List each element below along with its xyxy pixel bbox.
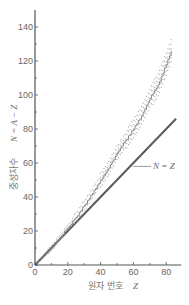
y-tick-label: 100 xyxy=(18,90,33,100)
isotope-dot xyxy=(56,238,57,239)
isotope-dot xyxy=(125,134,126,135)
isotope-dot xyxy=(69,223,70,224)
isotope-dot xyxy=(118,153,119,154)
isotope-dot xyxy=(89,203,90,204)
isotope-dot xyxy=(128,126,129,127)
isotope-dot xyxy=(133,133,134,134)
isotope-dot xyxy=(159,70,160,71)
isotope-dot xyxy=(97,180,98,181)
isotope-dot xyxy=(61,233,62,234)
isotope-dot xyxy=(138,116,139,117)
isotope-dot xyxy=(149,93,150,94)
isotope-dot xyxy=(146,109,147,110)
isotope-dot xyxy=(161,69,162,70)
isotope-dot xyxy=(156,90,157,91)
isotope-dot xyxy=(144,104,145,105)
isotope-dot xyxy=(117,146,118,147)
isotope-dot xyxy=(171,44,172,45)
isotope-dot xyxy=(64,228,65,229)
isotope-dot xyxy=(161,82,162,83)
isotope-dot xyxy=(171,53,172,54)
isotope-dot xyxy=(169,53,170,54)
isotope-dot xyxy=(131,139,132,140)
y-tick-label: 140 xyxy=(18,22,33,32)
isotope-dot xyxy=(171,57,172,58)
isotope-dot xyxy=(154,87,155,88)
isotope-dot xyxy=(154,83,155,84)
isotope-dot xyxy=(136,128,137,129)
isotope-dot xyxy=(138,111,139,112)
isotope-dot xyxy=(144,113,145,114)
isotope-dot xyxy=(102,176,103,177)
isotope-dot xyxy=(158,91,159,92)
isotope-dot xyxy=(107,163,108,164)
isotope-dot xyxy=(107,167,108,168)
isotope-dot xyxy=(117,159,118,160)
x-axis-variable: Z xyxy=(133,281,139,291)
isotope-dot xyxy=(146,96,147,97)
isotope-dot xyxy=(153,86,154,87)
isotope-dot xyxy=(79,207,80,208)
isotope-dot xyxy=(71,226,72,227)
isotope-dot xyxy=(77,211,78,212)
isotope-dot xyxy=(117,150,118,151)
isotope-dot xyxy=(166,75,167,76)
isotope-dot xyxy=(146,100,147,101)
isotope-dot xyxy=(128,140,129,141)
isotope-dot xyxy=(128,144,129,145)
isotope-dot xyxy=(51,250,52,251)
isotope-dot xyxy=(105,166,106,167)
isotope-dot xyxy=(90,199,91,200)
isotope-dot xyxy=(115,153,116,154)
y-axis-variable: N = A − Z xyxy=(9,104,19,143)
isotope-dot xyxy=(103,181,104,182)
y-tick-label: 20 xyxy=(23,226,33,236)
isotope-dot xyxy=(135,121,136,122)
isotope-dot xyxy=(156,77,157,78)
isotope-dot xyxy=(126,148,127,149)
isotope-dot xyxy=(162,61,163,62)
isotope-dot xyxy=(108,170,109,171)
isotope-dot xyxy=(133,137,134,138)
y-axis-title: 중성자수 xyxy=(9,158,19,190)
isotope-dot xyxy=(105,175,106,176)
isotope-dot xyxy=(95,192,96,193)
isotope-dot xyxy=(159,74,160,75)
isotope-dot xyxy=(131,135,132,136)
isotope-dot xyxy=(66,231,67,232)
y-tick-label: 80 xyxy=(23,124,33,134)
isotope-dot xyxy=(53,244,54,245)
isotope-dot xyxy=(100,186,101,187)
isotope-dot xyxy=(159,88,160,89)
isotope-dot xyxy=(103,172,104,173)
isotope-dot xyxy=(57,241,58,242)
isotope-dot xyxy=(123,140,124,141)
isotope-dot xyxy=(77,220,78,221)
isotope-dot xyxy=(120,149,121,150)
isotope-dot xyxy=(159,92,160,93)
isotope-dot xyxy=(102,184,103,185)
isotope-dot xyxy=(113,161,114,162)
isotope-dot xyxy=(107,176,108,177)
isotope-dot xyxy=(162,70,163,71)
isotope-dot xyxy=(171,48,172,49)
isotope-dot xyxy=(54,242,55,243)
isotope-dot xyxy=(153,82,154,83)
isotope-dot xyxy=(48,249,49,250)
isotope-dot xyxy=(162,66,163,67)
isotope-dot xyxy=(79,216,80,217)
isotope-dot xyxy=(143,120,144,121)
isotope-dot xyxy=(146,114,147,115)
isotope-dot xyxy=(115,162,116,163)
isotope-dot xyxy=(156,85,157,86)
isotope-dot xyxy=(136,119,137,120)
isotope-dot xyxy=(85,208,86,209)
isotope-dot xyxy=(82,202,83,203)
isotope-dot xyxy=(72,218,73,219)
isotope-dot xyxy=(164,65,165,66)
isotope-dot xyxy=(67,225,68,226)
isotope-dot xyxy=(139,127,140,128)
isotope-dot xyxy=(95,184,96,185)
isotope-dot xyxy=(74,214,75,215)
isotope-dot xyxy=(162,79,163,80)
